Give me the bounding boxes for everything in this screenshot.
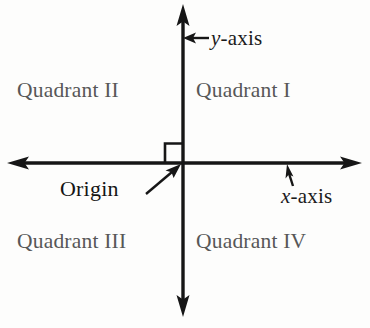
quadrant-2-label: Quadrant II <box>17 80 119 102</box>
y-axis-label: y-axis <box>211 28 262 49</box>
quadrant-4-label: Quadrant IV <box>196 231 306 253</box>
right-angle-marker <box>165 144 183 164</box>
quadrant-3-label: Quadrant III <box>17 231 126 253</box>
axes-and-arrows <box>0 0 370 328</box>
y-axis-label-variable: y <box>211 26 221 50</box>
origin-label: Origin <box>60 178 119 200</box>
x-axis-label: x-axis <box>281 186 332 207</box>
quadrant-1-label: Quadrant I <box>196 80 291 102</box>
origin-leader-line <box>146 172 172 194</box>
x-axis-label-suffix: -axis <box>291 184 333 208</box>
coordinate-plane-figure: Quadrant II Quadrant I Quadrant III Quad… <box>0 0 370 328</box>
x-axis-label-variable: x <box>281 184 291 208</box>
y-axis-label-suffix: -axis <box>221 26 263 50</box>
